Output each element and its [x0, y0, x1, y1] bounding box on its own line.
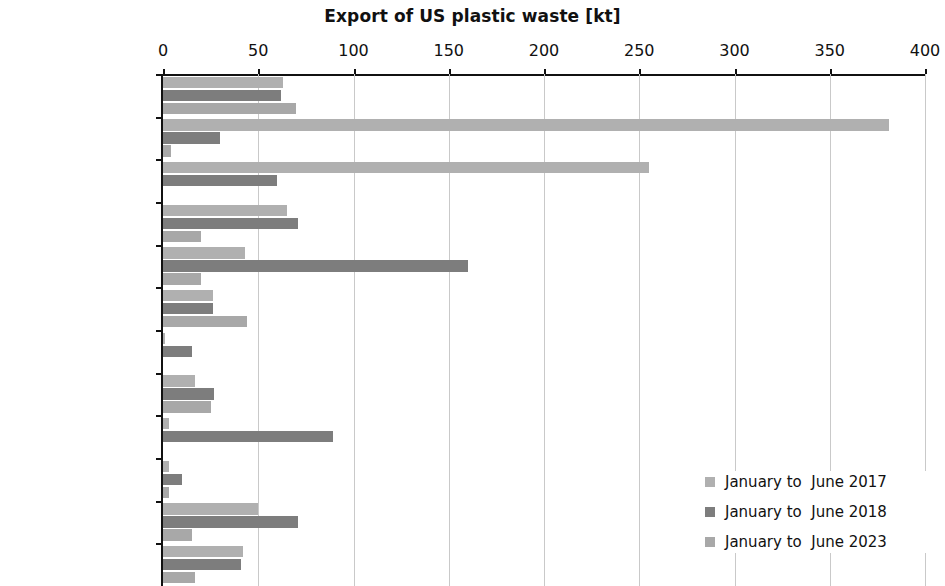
bar[interactable]: [163, 559, 241, 571]
x-axis-tick-label: 350: [814, 41, 845, 60]
x-axis-tick: [163, 69, 165, 74]
bar-chart: Export of US plastic waste [kt] 05010015…: [0, 0, 945, 586]
bar-group: [163, 418, 925, 456]
bar[interactable]: [163, 303, 213, 315]
bar[interactable]: [163, 145, 171, 157]
bar[interactable]: [163, 77, 283, 89]
legend-item[interactable]: January to June 2023: [705, 533, 930, 551]
y-axis-tick: [156, 74, 163, 76]
y-axis-tick: [156, 458, 163, 460]
x-axis-tick: [830, 69, 832, 74]
bar[interactable]: [163, 546, 243, 558]
bar[interactable]: [163, 529, 192, 541]
x-axis-tick: [258, 69, 260, 74]
legend-label: January to June 2018: [725, 503, 887, 521]
bar[interactable]: [163, 401, 211, 413]
y-axis-tick: [156, 330, 163, 332]
bar[interactable]: [163, 90, 281, 102]
bar-group: [163, 119, 925, 157]
bar[interactable]: [163, 231, 201, 243]
y-axis-tick: [156, 501, 163, 503]
x-axis-tick-label: 400: [910, 41, 941, 60]
bar[interactable]: [163, 388, 214, 400]
bar[interactable]: [163, 516, 298, 528]
x-axis-tick-label: 250: [624, 41, 655, 60]
bar-group: [163, 205, 925, 243]
x-axis-tick-label: 300: [719, 41, 750, 60]
legend-item[interactable]: January to June 2017: [705, 473, 930, 491]
legend-swatch-icon: [705, 507, 715, 517]
legend-swatch-icon: [705, 537, 715, 547]
legend-label: January to June 2023: [725, 533, 887, 551]
bar[interactable]: [163, 431, 333, 443]
x-axis-tick-label: 0: [158, 41, 168, 60]
bar[interactable]: [163, 333, 165, 345]
x-axis-tick: [639, 69, 641, 74]
y-axis-tick: [156, 415, 163, 417]
bar-group: [163, 333, 925, 371]
x-axis-tick-label: 150: [433, 41, 464, 60]
bar[interactable]: [163, 273, 201, 285]
bar-group: [163, 290, 925, 328]
bar[interactable]: [163, 247, 245, 259]
bar-group: [163, 375, 925, 413]
bar[interactable]: [163, 572, 195, 584]
bar-group: [163, 77, 925, 115]
x-axis-tick: [354, 69, 356, 74]
y-axis-tick: [156, 543, 163, 545]
legend-item[interactable]: January to June 2018: [705, 503, 930, 521]
bar[interactable]: [163, 218, 298, 230]
bar[interactable]: [163, 487, 169, 499]
bar[interactable]: [163, 103, 296, 115]
bar-group: [163, 162, 925, 200]
bar[interactable]: [163, 461, 169, 473]
bar[interactable]: [163, 418, 169, 430]
y-axis-tick: [156, 202, 163, 204]
y-axis-tick: [156, 287, 163, 289]
chart-legend: January to June 2017January to June 2018…: [705, 471, 930, 553]
x-axis-tick-label: 50: [248, 41, 268, 60]
x-axis-tick-label: 200: [529, 41, 560, 60]
bar[interactable]: [163, 375, 195, 387]
bar[interactable]: [163, 132, 220, 144]
legend-swatch-icon: [705, 477, 715, 487]
bar[interactable]: [163, 346, 192, 358]
bar[interactable]: [163, 119, 889, 131]
x-axis-tick: [449, 69, 451, 74]
bar[interactable]: [163, 175, 277, 187]
bar[interactable]: [163, 290, 213, 302]
bar[interactable]: [163, 260, 468, 272]
chart-title: Export of US plastic waste [kt]: [0, 6, 945, 26]
y-axis-tick: [156, 117, 163, 119]
x-axis-tick: [925, 69, 927, 74]
bar[interactable]: [163, 316, 247, 328]
bar[interactable]: [163, 503, 258, 515]
bar[interactable]: [163, 205, 287, 217]
x-axis-tick: [544, 69, 546, 74]
y-axis-tick: [156, 245, 163, 247]
bar-group: [163, 247, 925, 285]
bar[interactable]: [163, 162, 649, 174]
x-axis-tick-label: 100: [338, 41, 369, 60]
x-axis-tick: [735, 69, 737, 74]
bar[interactable]: [163, 474, 182, 486]
y-axis-tick: [156, 159, 163, 161]
y-axis-tick: [156, 373, 163, 375]
legend-label: January to June 2017: [725, 473, 887, 491]
